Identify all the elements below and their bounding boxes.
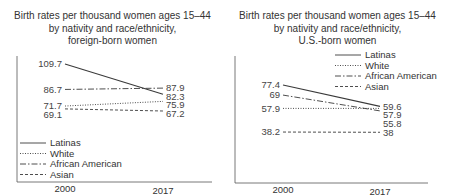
right-label-2000-asian: 38.2 [262,126,281,137]
left-series-line-asian [65,109,163,111]
left-legend-label-african-american: African American [50,158,122,169]
left-legend-label-latinas: Latinas [50,137,81,148]
left-legend-label-asian: Asian [50,169,74,180]
left-label-2017-asian: 67.2 [166,108,185,119]
left-legend-label-white: White [50,148,74,159]
right-x-tick-2000: 2000 [272,184,293,195]
left-label-2000-latinas: 109.7 [38,58,62,69]
right-label-2000-white: 57.9 [262,103,281,114]
right-legend-label-asian: Asian [365,81,389,92]
right-label-2000-african-american: 69 [269,89,280,100]
right-legend-label-african-american: African American [365,70,437,81]
left-label-2017-african-american: 87.9 [166,82,185,93]
left-series-line-latinas [65,64,163,94]
left-label-2000-african-american: 86.7 [44,84,63,95]
charts-canvas: 20002017109.782.3Latinas71.775.9White86.… [0,0,450,195]
right-label-2017-asian: 38 [383,127,394,138]
left-x-tick-2017: 2017 [152,185,173,195]
right-legend-label-white: White [365,60,389,71]
left-label-2000-asian: 69.1 [44,109,63,120]
right-legend-label-latinas: Latinas [365,49,396,60]
left-x-tick-2000: 2000 [54,183,75,194]
left-series-line-white [65,101,163,106]
right-x-tick-2017: 2017 [369,186,390,195]
